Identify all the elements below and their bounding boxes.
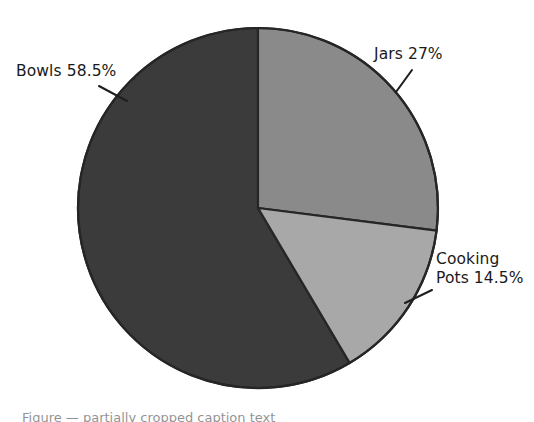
pie-label-cooking-pots-line2: Pots 14.5% [436,269,524,287]
leader-line-jars [396,70,412,92]
pie-label-cooking-pots: CookingPots 14.5% [436,250,524,288]
pie-label-jars: Jars 27% [374,45,443,64]
pie-label-bowls: Bowls 58.5% [16,62,116,81]
pie-label-cooking-pots-line1: Cooking [436,250,499,268]
figure-caption-clipped: Figure — partially cropped caption text [22,410,442,422]
